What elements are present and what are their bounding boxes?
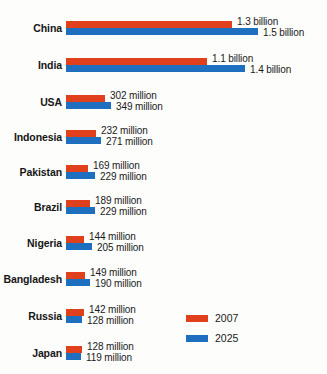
value-label-2025: 349 million [116, 101, 163, 112]
bar-2025 [66, 172, 95, 179]
value-label-2007: 142 million [89, 304, 136, 315]
value-label-2025: 229 million [100, 171, 147, 182]
chart-row: Indonesia232 million271 million [0, 122, 327, 152]
bar-2007 [66, 95, 105, 102]
country-label: Indonesia [0, 122, 62, 152]
country-label: Russia [0, 301, 62, 331]
value-label-2007: 189 million [95, 195, 142, 206]
value-label-2025: 271 million [106, 136, 153, 147]
chart-row: China1.3 billion1.5 billion [0, 13, 327, 43]
bar-2025 [66, 243, 92, 250]
bar-2007 [66, 58, 207, 65]
legend-label: 2025 [215, 331, 238, 345]
value-label-2025: 1.4 billion [250, 64, 291, 75]
country-label: Bangladesh [0, 264, 62, 294]
chart-row: Bangladesh149 million190 million [0, 264, 327, 294]
value-label-2007: 144 million [89, 231, 136, 242]
legend-swatch-2025 [186, 335, 208, 342]
value-label-2025: 128 million [87, 315, 134, 326]
chart-row: India1.1 billion1.4 billion [0, 50, 327, 80]
bar-2007 [66, 130, 96, 137]
bar-2025 [66, 353, 81, 360]
bar-2025 [66, 279, 90, 286]
bar-2007 [66, 309, 84, 316]
bar-2025 [66, 28, 258, 35]
bar-2025 [66, 102, 111, 109]
bar-2007 [66, 200, 90, 207]
chart-row: Nigeria144 million205 million [0, 228, 327, 258]
value-label-2007: 128 million [87, 341, 134, 352]
bar-2007 [66, 236, 84, 243]
value-label-2007: 149 million [90, 267, 137, 278]
bar-2025 [66, 65, 245, 72]
country-label: USA [0, 87, 62, 117]
chart-row: USA302 million349 million [0, 87, 327, 117]
value-label-2007: 169 million [93, 160, 140, 171]
legend-label: 2007 [215, 311, 238, 325]
country-label: Pakistan [0, 157, 62, 187]
country-label: China [0, 13, 62, 43]
bar-2025 [66, 137, 101, 144]
value-label-2007: 302 million [110, 90, 157, 101]
value-label-2025: 229 million [100, 206, 147, 217]
chart-row: Japan128 million119 million [0, 338, 327, 368]
value-label-2007: 232 million [101, 125, 148, 136]
chart-row: Pakistan169 million229 million [0, 157, 327, 187]
country-label: Brazil [0, 192, 62, 222]
bar-2007 [66, 272, 85, 279]
chart-row: Russia142 million128 million [0, 301, 327, 331]
country-label: Nigeria [0, 228, 62, 258]
value-label-2025: 205 million [97, 242, 144, 253]
value-label-2025: 190 million [95, 278, 142, 289]
value-label-2025: 1.5 billion [263, 27, 304, 38]
country-label: Japan [0, 338, 62, 368]
legend-swatch-2007 [186, 315, 208, 322]
bar-2025 [66, 316, 82, 323]
bar-2007 [66, 346, 82, 353]
value-label-2007: 1.3 billion [237, 16, 278, 27]
value-label-2025: 119 million [86, 352, 132, 363]
bar-2007 [66, 21, 232, 28]
chart-row: Brazil189 million229 million [0, 192, 327, 222]
bar-2025 [66, 207, 95, 214]
population-bar-chart: China1.3 billion1.5 billionIndia1.1 bill… [0, 0, 327, 374]
value-label-2007: 1.1 billion [212, 53, 253, 64]
bar-2007 [66, 165, 88, 172]
country-label: India [0, 50, 62, 80]
